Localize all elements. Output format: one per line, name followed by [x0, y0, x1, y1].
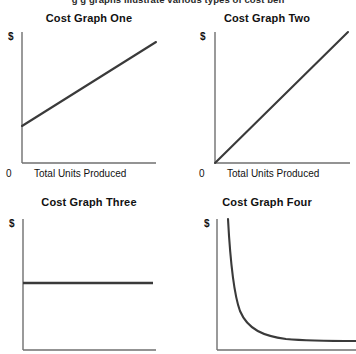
data-line-variable-cost: [215, 32, 348, 163]
plot-area-three: [0, 194, 178, 354]
x-axis-label-one: Total Units Produced: [34, 168, 126, 179]
chart-panel-cost-graph-three: Cost Graph Three $: [0, 194, 178, 354]
chart-panel-cost-graph-four: Cost Graph Four $: [178, 194, 356, 354]
plot-area-one: [0, 10, 178, 190]
chart-panel-cost-graph-one: Cost Graph One $ 0 Total Units Produced: [0, 10, 178, 190]
clipped-caption-text: g g graphs illustrate various types of c…: [0, 0, 356, 6]
data-curve-fixed-cost-per-unit: [228, 219, 356, 341]
origin-label-two: 0: [199, 168, 205, 179]
plot-area-two: [178, 10, 356, 190]
worksheet-page: g g graphs illustrate various types of c…: [0, 0, 356, 354]
data-line-mixed-cost: [22, 42, 156, 126]
origin-label-one: 0: [6, 168, 12, 179]
x-axis-label-two: Total Units Produced: [227, 168, 319, 179]
chart-panel-cost-graph-two: Cost Graph Two $ 0 Total Units Produced: [178, 10, 356, 190]
plot-area-four: [178, 194, 356, 354]
